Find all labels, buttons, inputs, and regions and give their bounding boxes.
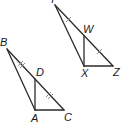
- label-y: Y: [49, 0, 57, 5]
- triangle-yxz: Y W X Z: [49, 0, 121, 79]
- label-d: D: [36, 66, 44, 78]
- label-c: C: [64, 111, 72, 123]
- segment-ba: [7, 49, 35, 110]
- segment-yx: [55, 5, 84, 66]
- label-z: Z: [112, 66, 121, 78]
- label-b: B: [0, 36, 7, 48]
- label-x: X: [80, 67, 89, 79]
- label-w: W: [83, 23, 95, 35]
- triangle-bac: B D A C: [0, 36, 72, 124]
- label-a: A: [30, 112, 38, 124]
- geometry-figure: Y W X Z B D A C: [0, 0, 121, 127]
